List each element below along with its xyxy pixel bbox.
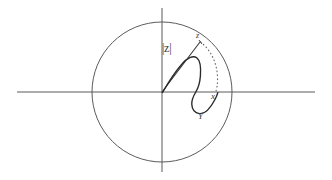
diagram-svg <box>0 0 332 180</box>
spiral-trajectory <box>163 57 218 114</box>
figure-canvas: |z| z x Y <box>0 0 332 180</box>
point-y-label: Y <box>198 112 203 121</box>
dotted-arc <box>201 42 218 93</box>
point-x-label: x <box>211 92 215 101</box>
modulus-label: |z| <box>162 42 171 54</box>
point-z-label: z <box>196 32 199 40</box>
